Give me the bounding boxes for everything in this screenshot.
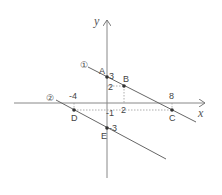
line-1-label: ①: [80, 60, 88, 70]
y-axis-label: y: [93, 14, 100, 28]
tick-y-3: 3: [109, 71, 114, 81]
point-e-label: E: [101, 131, 107, 141]
point-c-label: C: [169, 113, 176, 123]
line-2-label: ②: [46, 93, 54, 103]
point-d-label: D: [71, 113, 78, 123]
tick-y-m3: -3: [109, 123, 117, 133]
tick-x-m4: -4: [69, 91, 77, 101]
tick-x-8: 8: [169, 91, 174, 101]
point-a-label: A: [99, 66, 105, 76]
coordinate-diagram: x y ① ② A B C D E 3 2 -1 -3 2 8 -4: [0, 0, 222, 195]
point-d: [72, 108, 76, 112]
point-b: [122, 84, 126, 88]
point-b-label: B: [123, 74, 129, 84]
point-c: [170, 108, 174, 112]
tick-x-2: 2: [121, 105, 126, 115]
x-axis-label: x: [197, 106, 204, 120]
tick-y-m1: -1: [106, 108, 114, 118]
tick-y-2: 2: [108, 82, 113, 92]
